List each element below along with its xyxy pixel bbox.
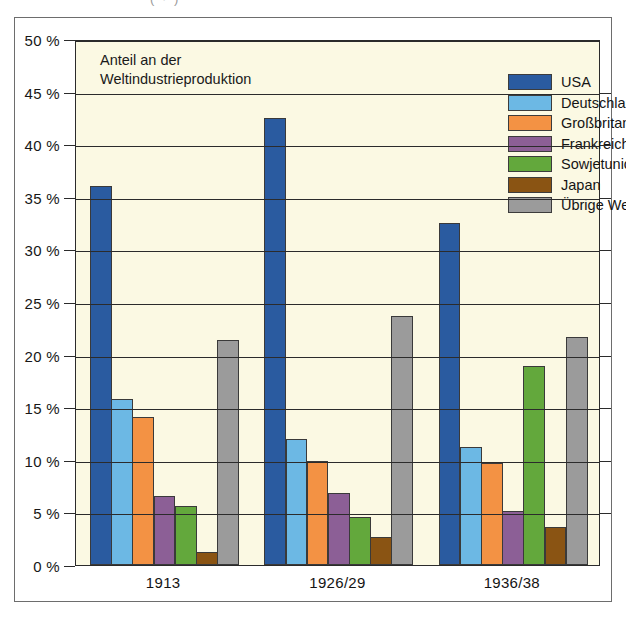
y-axis-label: 25 % — [25, 295, 60, 312]
y-axis-label: 30 % — [25, 242, 60, 259]
y-axis-tick — [64, 408, 75, 409]
legend-label: Großbritannien — [561, 115, 626, 131]
plot-area: Anteil an der Weltindustrieproduktion US… — [75, 40, 600, 566]
y-axis-tick-right — [600, 303, 611, 304]
bar-grobritannien-1913 — [132, 417, 154, 565]
bar-deutschland-1926-29 — [286, 439, 308, 565]
bar-brigewelt-1936-38 — [566, 337, 588, 565]
y-axis-label: 0 % — [33, 558, 60, 575]
legend-swatch-icon — [508, 74, 552, 90]
legend-item-usa: USA — [508, 73, 626, 91]
cropped-caption-remnant: ( · ) — [0, 0, 626, 14]
gridline — [76, 514, 599, 515]
legend-label: Frankreich — [561, 136, 626, 152]
bar-sowjetunion-1936-38 — [523, 366, 545, 565]
y-axis-tick — [64, 461, 75, 462]
y-axis-label: 35 % — [25, 189, 60, 206]
gridline — [76, 146, 599, 147]
bar-japan-1926-29 — [370, 537, 392, 565]
bar-sowjetunion-1926-29 — [349, 517, 371, 565]
y-axis-tick-right — [600, 250, 611, 251]
y-axis-tick — [64, 303, 75, 304]
y-axis-label: 5 % — [33, 505, 60, 522]
y-axis-label: 20 % — [25, 347, 60, 364]
y-axis-label: 50 % — [25, 32, 60, 49]
legend-swatch-icon — [508, 95, 552, 111]
legend-swatch-icon — [508, 115, 552, 131]
x-axis-label: 1913 — [146, 574, 181, 591]
legend-item-grobritannien: Großbritannien — [508, 114, 626, 132]
y-axis-tick — [64, 356, 75, 357]
cropped-caption-text: ( · ) — [150, 0, 180, 6]
legend-item-deutschland: Deutschland — [508, 94, 626, 112]
legend-item-sowjetunion: Sowjetunion — [508, 155, 626, 173]
bar-deutschland-1936-38 — [460, 447, 482, 565]
bar-brigewelt-1913 — [217, 340, 239, 565]
bar-japan-1913 — [196, 552, 218, 565]
y-axis-tick — [64, 198, 75, 199]
gridline — [76, 409, 599, 410]
bar-usa-1926-29 — [264, 118, 286, 565]
y-axis-tick-right — [600, 93, 611, 94]
x-axis-labels: 19131926/291936/38 — [75, 574, 600, 600]
legend-label: Japan — [561, 177, 601, 193]
bar-frankreich-1913 — [154, 496, 176, 565]
legend-label: Sowjetunion — [561, 156, 626, 172]
gridline — [76, 41, 599, 42]
legend-swatch-icon — [508, 177, 552, 193]
bar-frankreich-1936-38 — [502, 511, 524, 565]
x-axis-label: 1926/29 — [309, 574, 365, 591]
y-axis-label: 45 % — [25, 84, 60, 101]
y-axis-tick-right — [600, 145, 611, 146]
legend-item-japan: Japan — [508, 176, 626, 194]
legend-swatch-icon — [508, 156, 552, 172]
y-axis-tick-right — [600, 513, 611, 514]
gridline — [76, 199, 599, 200]
y-axis-tick — [64, 566, 75, 567]
y-axis-tick-right — [600, 356, 611, 357]
y-axis-tick — [64, 145, 75, 146]
x-axis-label: 1936/38 — [484, 574, 540, 591]
gridline — [76, 462, 599, 463]
bar-brigewelt-1926-29 — [391, 316, 413, 565]
bar-japan-1936-38 — [545, 527, 567, 565]
legend-label: USA — [561, 74, 591, 90]
y-axis-label: 15 % — [25, 400, 60, 417]
bar-deutschland-1913 — [111, 399, 133, 565]
bar-usa-1913 — [90, 186, 112, 565]
gridline — [76, 94, 599, 95]
y-axis-tick — [64, 513, 75, 514]
legend-label: Deutschland — [561, 95, 626, 111]
y-axis-tick-right — [600, 198, 611, 199]
y-axis-tick — [64, 40, 75, 41]
y-axis-tick — [64, 250, 75, 251]
y-axis-label: 10 % — [25, 452, 60, 469]
bar-frankreich-1926-29 — [328, 493, 350, 565]
y-axis-tick-right — [600, 461, 611, 462]
y-axis-label: 40 % — [25, 137, 60, 154]
gridline — [76, 304, 599, 305]
y-axis-tick-right — [600, 408, 611, 409]
chart-page: ( · ) 0 %5 %10 %15 %20 %25 %30 %35 %40 %… — [0, 0, 626, 624]
y-axis-tick — [64, 93, 75, 94]
bar-grobritannien-1926-29 — [307, 461, 329, 565]
gridline — [76, 357, 599, 358]
gridline — [76, 251, 599, 252]
legend-item-frankreich: Frankreich — [508, 135, 626, 153]
legend-swatch-icon — [508, 136, 552, 152]
y-axis: 0 %5 %10 %15 %20 %25 %30 %35 %40 %45 %50… — [0, 40, 75, 566]
